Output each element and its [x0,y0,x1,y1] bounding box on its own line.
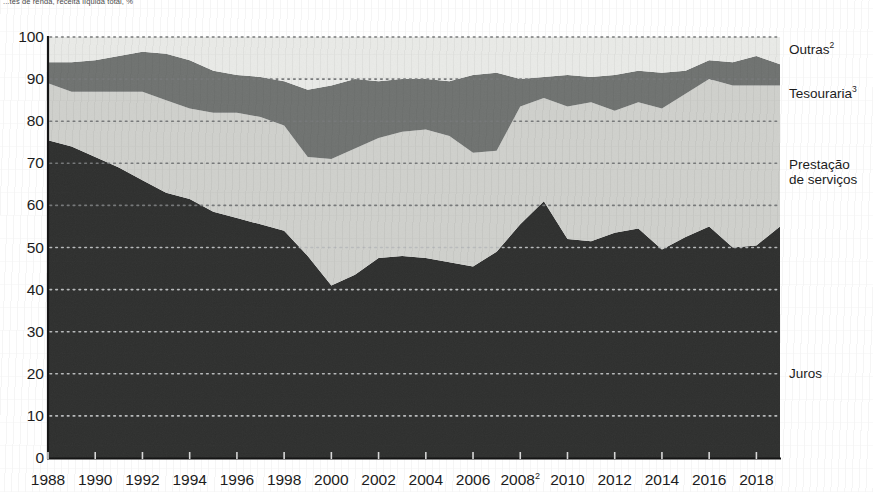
series-label-outras-sup: 2 [830,40,835,50]
x-axis-tick-label-1996: 1996 [220,471,254,489]
x-axis-tick-label-1994: 1994 [172,471,206,489]
x-axis-tick-label-2010: 2010 [550,471,584,489]
x-axis-tick-label-1992: 1992 [125,471,159,489]
x-axis-tick-label-2004: 2004 [409,471,443,489]
x-axis-tick-label-2016: 2016 [692,471,726,489]
series-label-juros-text: Juros [789,366,822,381]
x-axis-tick-label-2018: 2018 [739,471,773,489]
x-axis-labels: 1988199019921994199619982000200220042006… [0,0,873,492]
x-axis-tick-label-2000: 2000 [314,471,348,489]
series-label-outras-text: Outras [789,42,830,57]
x-axis-tick-label-2006: 2006 [456,471,490,489]
chart-caption: ...tes de renda, receita líquida total, … [3,0,133,6]
series-label-prestacao-line2: de serviços [789,172,857,187]
x-axis-tick-label-2002: 2002 [361,471,395,489]
series-label-tesouraria-text: Tesouraria [789,86,852,101]
x-axis-tick-sup-2008: 2 [535,471,540,481]
series-label-prestacao-line1: Prestação [789,157,857,172]
series-label-tesouraria: Tesouraria3 [789,82,857,101]
x-axis-tick-label-1998: 1998 [267,471,301,489]
series-label-tesouraria-sup: 3 [852,84,857,94]
x-axis-tick-label-1988: 1988 [31,471,65,489]
x-axis-tick-label-2012: 2012 [597,471,631,489]
x-axis-tick-label-1990: 1990 [78,471,112,489]
x-axis-tick-label-2008: 20082 [501,471,541,489]
x-axis-tick-label-2014: 2014 [645,471,679,489]
stacked-area-chart: 0102030405060708090100 19881990199219941… [0,0,873,492]
series-label-prestacao-de-servicos: Prestação de serviços [789,157,857,187]
series-label-outras: Outras2 [789,38,834,57]
series-label-juros: Juros [789,366,822,381]
